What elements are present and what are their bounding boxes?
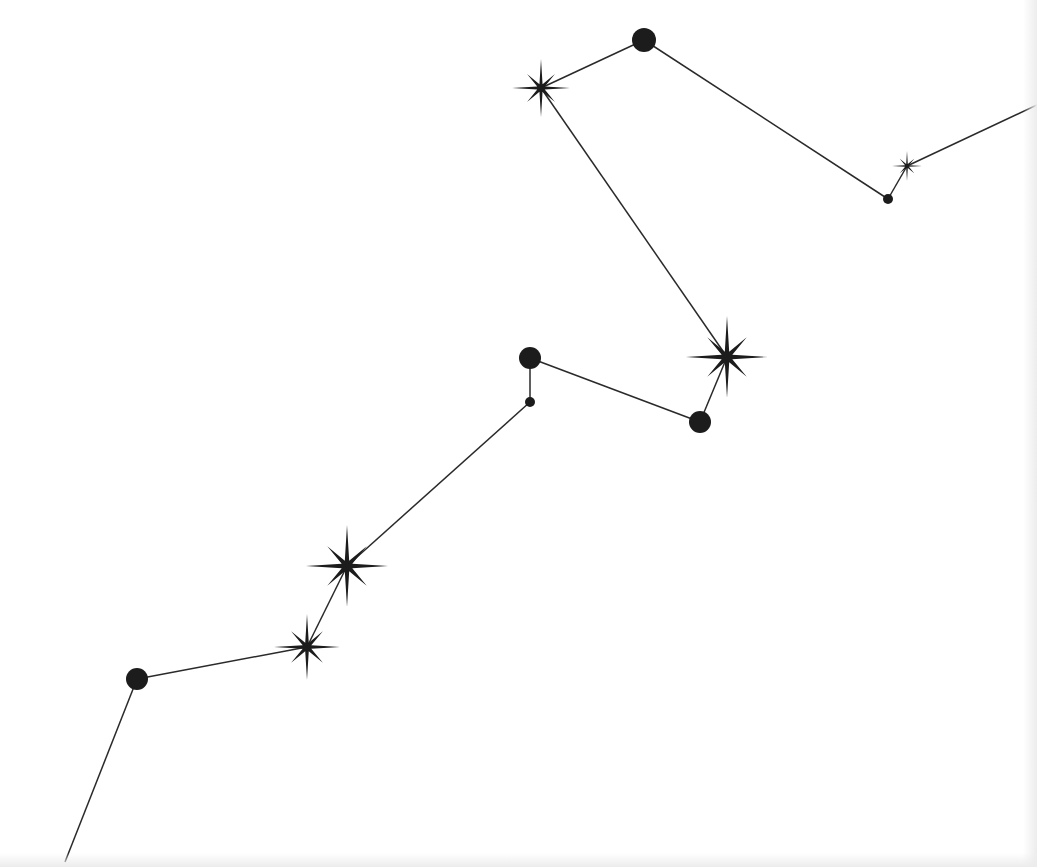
right-edge-shading xyxy=(1023,0,1037,867)
connector-line xyxy=(65,679,137,862)
small-dot-star-icon xyxy=(525,397,535,407)
connector-line xyxy=(888,166,907,199)
connector-line xyxy=(137,647,307,679)
eight-point-star-icon xyxy=(892,151,922,181)
connecting-lines xyxy=(65,40,1037,862)
round-star-icon xyxy=(689,411,711,433)
constellation-diagram xyxy=(0,0,1037,867)
constellation-svg xyxy=(0,0,1037,867)
connector-line xyxy=(541,40,644,88)
bottom-edge-shading xyxy=(0,853,1037,867)
round-star-icon xyxy=(519,347,541,369)
connector-line xyxy=(644,40,888,199)
eight-point-star-icon xyxy=(512,59,570,117)
connector-line xyxy=(307,566,347,647)
eight-point-star-icon xyxy=(274,614,340,680)
connector-line xyxy=(347,402,530,566)
connector-line xyxy=(907,105,1037,166)
star-nodes xyxy=(126,28,922,690)
eight-point-star-icon xyxy=(686,316,768,398)
connector-line xyxy=(541,88,727,357)
connector-line xyxy=(530,358,700,422)
round-star-icon xyxy=(126,668,148,690)
round-star-icon xyxy=(632,28,656,52)
eight-point-star-icon xyxy=(306,525,388,607)
small-dot-star-icon xyxy=(883,194,893,204)
